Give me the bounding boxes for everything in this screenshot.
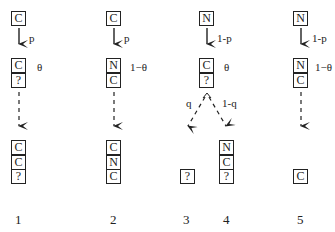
col1-top-prob: p	[29, 32, 35, 44]
col1-bottom-cell-1: C	[11, 155, 26, 170]
col4-bottom-cell-1: C	[219, 155, 234, 170]
col2-bottom-cell-2: C	[106, 169, 121, 184]
col1-bottom-cell-0: C	[11, 140, 26, 155]
col5-label: 5	[297, 213, 304, 227]
arrows-layer	[0, 0, 335, 232]
col1-top-box: C	[11, 11, 26, 26]
col1-mid-prob: θ	[37, 61, 42, 73]
col5-mid-cell-0: N	[293, 58, 308, 73]
col4-label: 4	[223, 213, 230, 227]
col1-bottom-cell-2: ?	[11, 169, 26, 184]
col1-label: 1	[15, 213, 22, 227]
col34-mid-prob: θ	[224, 61, 229, 73]
col1-mid-cell-0: C	[11, 58, 26, 73]
col3-label: 3	[183, 213, 190, 227]
col2-mid-cell-1: C	[106, 73, 121, 88]
col5-top-box: N	[293, 11, 308, 26]
col1-mid-cell-1: ?	[11, 73, 26, 88]
col34-top-box: N	[199, 11, 214, 26]
col2-mid-cell-0: N	[106, 58, 121, 73]
col34-mid-cell-0: C	[199, 58, 214, 73]
col2-mid-prob: 1−θ	[130, 61, 147, 73]
col5-mid-cell-1: C	[293, 73, 308, 88]
col5-bottom-cell-0: C	[293, 169, 308, 184]
col5-top-prob: 1-p	[312, 32, 327, 44]
col2-bottom-cell-1: N	[106, 155, 121, 170]
col34-branch-left-prob: q	[186, 97, 192, 109]
branch-apex-icon	[203, 93, 211, 98]
dashed-arrows	[19, 92, 301, 126]
col4-bottom-cell-2: ?	[219, 169, 234, 184]
col3-bottom-cell-0: ?	[180, 169, 195, 184]
col2-top-prob: p	[124, 32, 130, 44]
col2-label: 2	[110, 213, 117, 227]
col5-mid-prob: 1−θ	[315, 61, 332, 73]
solid-arrows	[19, 28, 301, 44]
col34-branch-right-prob: 1-q	[222, 97, 237, 109]
col34-top-prob: 1-p	[217, 32, 232, 44]
col2-bottom-cell-0: C	[106, 140, 121, 155]
col4-bottom-cell-0: N	[219, 140, 234, 155]
col2-top-box: C	[106, 11, 121, 26]
col34-mid-cell-1: ?	[199, 73, 214, 88]
